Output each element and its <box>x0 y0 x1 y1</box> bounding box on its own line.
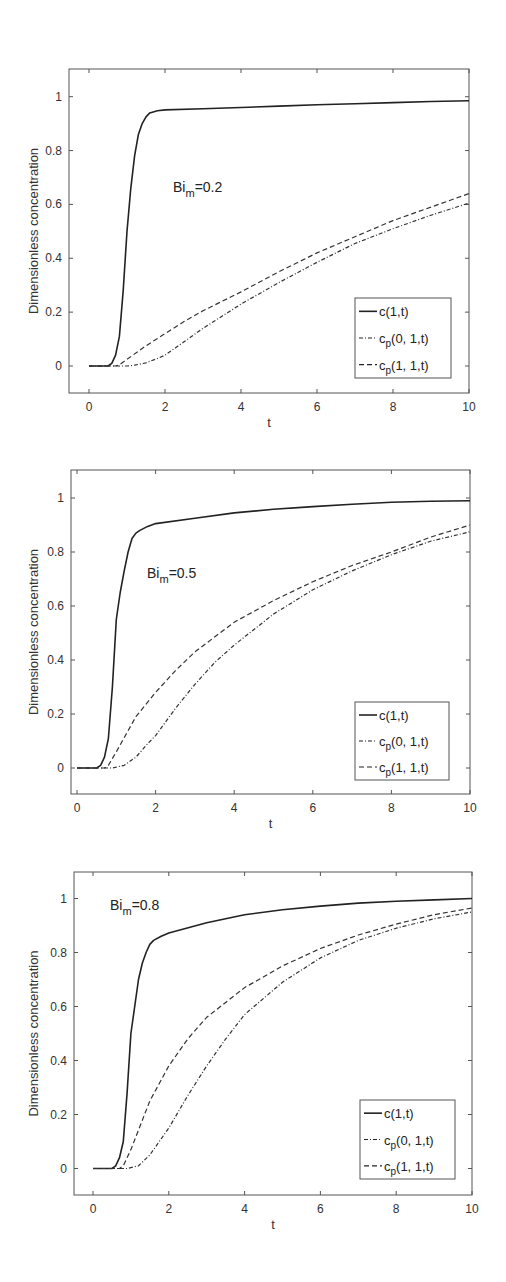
y-tick-label: 0 <box>60 1162 67 1176</box>
x-tick-label: 0 <box>86 400 93 414</box>
legend: c(1,t)cp(0, 1,t)cp(1, 1,t) <box>355 702 449 780</box>
y-tick-label: 0 <box>57 761 64 775</box>
legend-entry: c(1,t) <box>379 708 409 723</box>
figure: 024681000.20.40.60.81tDimensionless conc… <box>0 0 506 1282</box>
x-tick-label: 4 <box>238 400 245 414</box>
x-tick-label: 8 <box>393 1202 400 1216</box>
y-tick-label: 0.4 <box>47 653 64 667</box>
x-tick-label: 10 <box>465 1202 479 1216</box>
y-tick-label: 0.6 <box>45 197 62 211</box>
x-tick-label: 2 <box>152 801 159 815</box>
legend-entry: c(1,t) <box>379 304 409 319</box>
x-axis-label: t <box>271 1217 275 1232</box>
x-axis-label: t <box>269 816 273 831</box>
legend: c(1,t)cp(0, 1,t)cp(1, 1,t) <box>355 298 451 378</box>
x-axis-label: t <box>267 415 271 430</box>
y-tick-label: 1 <box>55 90 62 104</box>
x-tick-label: 0 <box>90 1202 97 1216</box>
x-tick-label: 2 <box>162 400 169 414</box>
x-tick-label: 10 <box>463 801 477 815</box>
x-tick-label: 4 <box>241 1202 248 1216</box>
y-tick-label: 0.6 <box>50 1000 67 1014</box>
x-tick-label: 10 <box>462 400 476 414</box>
y-tick-label: 1 <box>60 892 67 906</box>
y-axis-label: Dimensionless concentration <box>26 549 41 715</box>
x-tick-label: 0 <box>74 801 81 815</box>
chart-panel-bi-0.8: 024681000.20.40.60.81tDimensionless conc… <box>26 872 479 1232</box>
legend: c(1,t)cp(0, 1,t)cp(1, 1,t) <box>360 1100 455 1179</box>
y-tick-label: 0.6 <box>47 599 64 613</box>
y-tick-label: 1 <box>57 491 64 505</box>
chart-panel-bi-0.5: 024681000.20.40.60.81tDimensionless conc… <box>26 470 477 831</box>
x-tick-label: 8 <box>388 801 395 815</box>
y-tick-label: 0.2 <box>50 1108 67 1122</box>
y-tick-label: 0.8 <box>50 946 67 960</box>
x-tick-label: 4 <box>231 801 238 815</box>
chart-panel-bi-0.2: 024681000.20.40.60.81tDimensionless conc… <box>26 69 476 430</box>
y-tick-label: 0.2 <box>45 305 62 319</box>
x-tick-label: 2 <box>165 1202 172 1216</box>
x-tick-label: 8 <box>390 400 397 414</box>
y-tick-label: 0.4 <box>45 251 62 265</box>
y-tick-label: 0.8 <box>47 545 64 559</box>
y-tick-label: 0.8 <box>45 144 62 158</box>
y-axis-label: Dimensionless concentration <box>26 148 41 314</box>
x-tick-label: 6 <box>309 801 316 815</box>
x-tick-label: 6 <box>314 400 321 414</box>
y-axis-label: Dimensionless concentration <box>26 950 41 1116</box>
y-tick-label: 0.4 <box>50 1054 67 1068</box>
y-tick-label: 0 <box>55 359 62 373</box>
x-tick-label: 6 <box>317 1202 324 1216</box>
legend-entry: c(1,t) <box>384 1106 414 1121</box>
y-tick-label: 0.2 <box>47 707 64 721</box>
